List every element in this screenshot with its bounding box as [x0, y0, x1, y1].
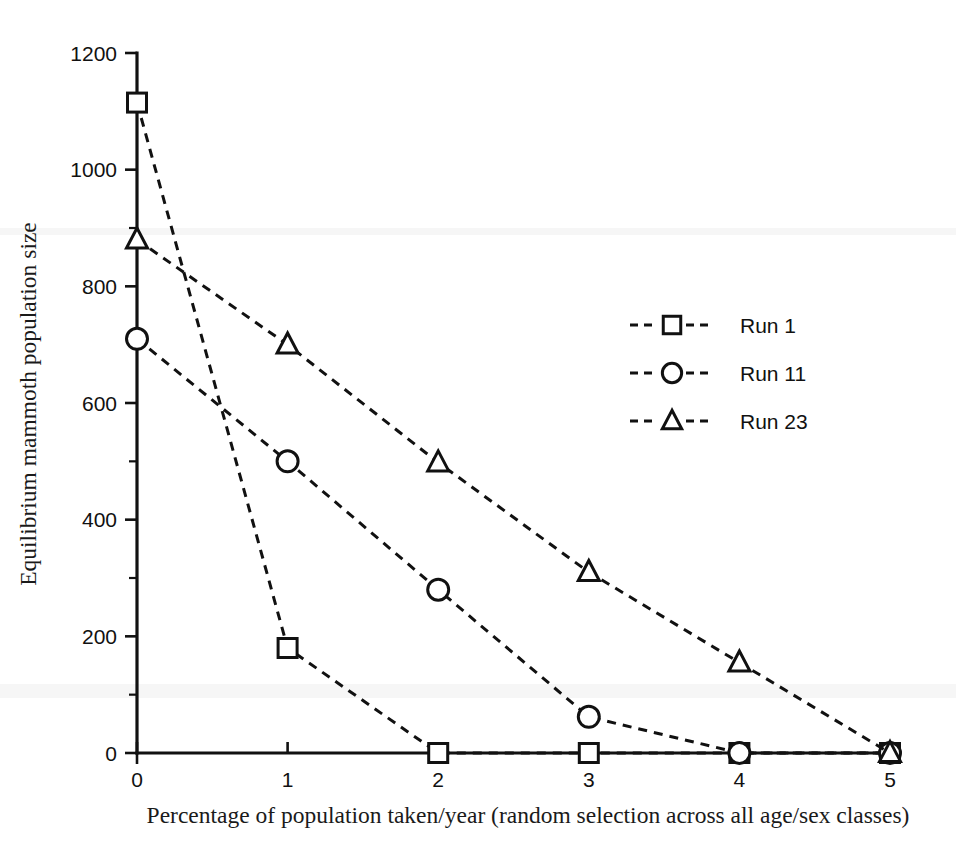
- x-tick-label: 5: [884, 768, 896, 791]
- marker-square: [579, 744, 598, 763]
- x-tick-label: 1: [282, 768, 294, 791]
- legend-label: Run 11: [740, 362, 806, 385]
- x-tick-label: 4: [734, 768, 746, 791]
- x-tick-label: 3: [583, 768, 595, 791]
- x-tick-label: 2: [432, 768, 444, 791]
- legend-label: Run 1: [740, 314, 796, 337]
- marker-square: [663, 316, 680, 333]
- y-tick-label: 800: [82, 275, 117, 298]
- x-axis-label: Percentage of population taken/year (ran…: [147, 802, 910, 828]
- marker-square: [429, 744, 448, 763]
- y-tick-label: 200: [82, 625, 117, 648]
- marker-circle: [428, 579, 449, 600]
- marker-circle: [729, 743, 750, 764]
- marker-circle: [578, 706, 599, 727]
- chart-background: [0, 0, 956, 848]
- x-tick-label: 0: [131, 768, 143, 791]
- y-tick-label: 600: [82, 392, 117, 415]
- y-tick-label: 1000: [70, 158, 117, 181]
- marker-circle: [662, 363, 681, 382]
- marker-square: [128, 93, 147, 112]
- y-tick-label: 1200: [70, 42, 117, 65]
- equilibrium-mammoth-population-chart: 020040060080010001200012345 Run 1Run 11R…: [0, 0, 956, 848]
- y-tick-label: 0: [105, 742, 117, 765]
- marker-circle: [277, 451, 298, 472]
- legend-label: Run 23: [740, 410, 808, 433]
- marker-square: [278, 639, 297, 658]
- marker-circle: [127, 328, 148, 349]
- scan-artifact-band-upper: [0, 228, 956, 235]
- scan-artifact-band: [0, 684, 956, 698]
- chart-figure: 020040060080010001200012345 Run 1Run 11R…: [0, 0, 956, 848]
- y-axis-label: Equilibrium mammoth population size: [15, 222, 41, 586]
- y-tick-label: 400: [82, 508, 117, 531]
